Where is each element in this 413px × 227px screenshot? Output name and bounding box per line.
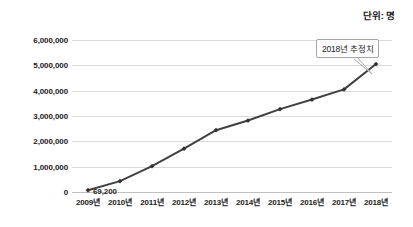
series-line (88, 64, 376, 190)
gridline (72, 192, 392, 193)
y-axis-tick-label: 4,000,000 (2, 86, 68, 95)
x-axis-tick-label: 2015년 (268, 196, 292, 207)
y-axis: 01,000,0002,000,0003,000,0004,000,0005,0… (0, 40, 68, 192)
y-axis-tick-label: 1,000,000 (2, 162, 68, 171)
first-point-data-label: 69,200 (93, 187, 117, 196)
unit-caption: 단위: 명 (363, 8, 395, 22)
y-axis-tick-label: 5,000,000 (2, 61, 68, 70)
x-axis-tick-label: 2012년 (172, 196, 196, 207)
x-axis-tick-label: 2014년 (236, 196, 260, 207)
y-axis-tick-label: 3,000,000 (2, 112, 68, 121)
x-axis-tick-label: 2016년 (300, 196, 324, 207)
x-axis-tick-label: 2018년 (364, 196, 388, 207)
data-point-marker (86, 188, 91, 193)
x-axis: 2009년2010년2011년2012년2013년2014년2015년2016년… (72, 196, 392, 216)
x-axis-tick-label: 2011년 (140, 196, 163, 207)
line-series (72, 40, 392, 192)
chart-container: 단위: 명 01,000,0002,000,0003,000,0004,000,… (0, 0, 413, 227)
plot-area: 69,200 (72, 40, 392, 192)
x-axis-tick-label: 2013년 (204, 196, 228, 207)
data-point-marker (246, 118, 251, 123)
data-point-marker (310, 97, 315, 102)
y-axis-tick-label: 6,000,000 (2, 36, 68, 45)
y-axis-tick-label: 0 (2, 188, 68, 197)
data-point-marker (278, 107, 283, 112)
callout-pointer (352, 55, 382, 77)
y-axis-tick-label: 2,000,000 (2, 137, 68, 146)
x-axis-tick-label: 2017년 (332, 196, 356, 207)
x-axis-tick-label: 2009년 (76, 196, 100, 207)
x-axis-tick-label: 2010년 (108, 196, 132, 207)
callout-2018-estimate: 2018년 추정치 (316, 39, 379, 58)
